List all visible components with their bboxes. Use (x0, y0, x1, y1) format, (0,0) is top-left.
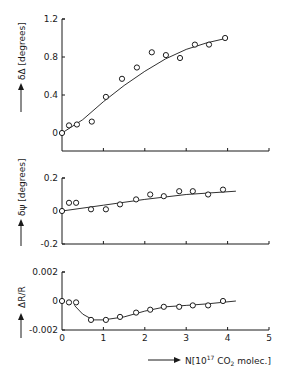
data-point-marker (66, 200, 71, 205)
x-tick-label: 2 (142, 333, 148, 343)
data-point-marker (59, 298, 64, 303)
data-point-marker (206, 42, 211, 47)
panel3-ylabel: ΔR/R (17, 286, 27, 308)
panel-delta-delta: 00.40.81.2 (44, 14, 269, 151)
data-point-marker (89, 119, 94, 124)
data-point-marker (206, 303, 211, 308)
data-point-marker (177, 55, 182, 60)
data-point-marker (117, 314, 122, 319)
y-tick-label: 0.2 (44, 173, 58, 183)
xlabel-group: N[1017 CO2 molec.] (148, 354, 271, 367)
y-tick-label: 0 (52, 128, 58, 138)
ylabel-arrowhead-icon (18, 219, 24, 226)
panel2-ylabel: δψ [degrees] (17, 158, 27, 216)
data-point-marker (177, 304, 182, 309)
panel-reflectance: -0.00200.002012345 (29, 267, 272, 343)
data-point-marker (74, 200, 79, 205)
data-point-marker (88, 317, 93, 322)
y-tick-label: 0 (52, 296, 58, 306)
x-tick-label: 3 (183, 333, 189, 343)
data-point-marker (66, 123, 71, 128)
data-point-marker (74, 300, 79, 305)
panel3-ylabel-group: ΔR/R (17, 286, 27, 338)
data-point-marker (177, 189, 182, 194)
data-point-marker (59, 208, 64, 213)
y-tick-label: -0.002 (29, 325, 58, 335)
data-point-marker (119, 76, 124, 81)
data-point-marker (149, 50, 154, 55)
fit-curve (74, 301, 236, 320)
panel2-ylabel-group: δψ [degrees] (17, 158, 27, 246)
data-point-marker (161, 194, 166, 199)
data-point-marker (103, 207, 108, 212)
x-tick-label: 0 (59, 333, 65, 343)
data-point-marker (223, 35, 228, 40)
data-point-marker (88, 207, 93, 212)
y-tick-label: 1.2 (44, 14, 58, 24)
ylabel-arrowhead-icon (18, 313, 24, 320)
y-tick-label: -0.2 (40, 239, 58, 249)
x-tick-label: 1 (101, 333, 107, 343)
y-tick-label: 0.002 (32, 267, 58, 277)
panel-delta-psi: -0.200.2 (40, 173, 269, 249)
y-tick-label: 0.8 (44, 52, 59, 62)
x-axis-label: N[1017 CO2 molec.] (185, 354, 271, 367)
data-point-marker (190, 303, 195, 308)
data-point-marker (161, 304, 166, 309)
data-point-marker (66, 300, 71, 305)
x-tick-label: 5 (266, 333, 272, 343)
panel1-ylabel: δΔ [degrees] (17, 22, 27, 80)
data-point-marker (103, 94, 108, 99)
data-point-marker (148, 192, 153, 197)
data-point-marker (220, 298, 225, 303)
data-point-marker (59, 130, 64, 135)
y-tick-label: 0 (52, 206, 58, 216)
xlabel-arrowhead-icon (174, 357, 181, 363)
data-point-marker (148, 307, 153, 312)
ylabel-arrowhead-icon (18, 83, 24, 90)
data-point-marker (117, 202, 122, 207)
figure: 00.40.81.2 -0.200.2 -0.00200.002012345 δ… (0, 0, 283, 379)
data-point-marker (134, 65, 139, 70)
data-point-marker (163, 53, 168, 58)
data-point-marker (134, 197, 139, 202)
data-point-marker (74, 122, 79, 127)
y-tick-label: 0.4 (44, 90, 59, 100)
data-point-marker (134, 310, 139, 315)
data-point-marker (206, 192, 211, 197)
panel1-ylabel-group: δΔ [degrees] (17, 22, 27, 112)
x-tick-label: 4 (225, 333, 231, 343)
fit-curve (62, 38, 228, 133)
data-point-marker (190, 189, 195, 194)
data-point-marker (220, 187, 225, 192)
data-point-marker (103, 317, 108, 322)
data-point-marker (192, 42, 197, 47)
